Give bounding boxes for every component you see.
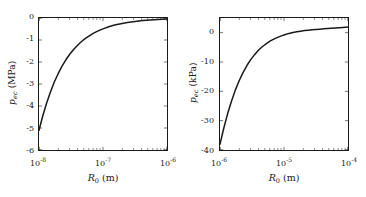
x-tick-mantissa: 10 — [160, 159, 170, 168]
y-tick-label: -40 — [183, 147, 214, 155]
y-tick-label: -4 — [6, 102, 34, 110]
plot-area-left — [38, 17, 168, 151]
x-tick-exponent: -7 — [105, 156, 111, 163]
y-tick-label: -1 — [6, 35, 34, 43]
x-tick-mantissa: 10 — [211, 159, 221, 168]
y-tick-label: 0 — [183, 28, 214, 36]
x-axis-label-unit-right: (m) — [280, 172, 299, 183]
x-axis-label-left: R0 (m) — [38, 172, 168, 185]
x-tick-exponent: -5 — [286, 156, 292, 163]
y-tick-label: -2 — [6, 58, 34, 66]
plot-curve-left — [39, 18, 167, 150]
y-tick-label: -3 — [6, 80, 34, 88]
y-tick-label: -10 — [183, 58, 214, 66]
y-axis-label-unit-right: (kPa) — [188, 62, 198, 89]
figure-container: pec (MPa) R0 (m) 0-1-2-3-4-5-6 10-810-71… — [0, 0, 366, 197]
x-tick-mantissa: 10 — [30, 159, 40, 168]
y-tick-label: 0 — [6, 13, 34, 21]
x-tick-mantissa: 10 — [95, 159, 105, 168]
x-tick-exponent: -4 — [351, 156, 357, 163]
x-axis-label-unit-left: (m) — [99, 172, 118, 183]
x-tick-label: 10-6 — [199, 155, 239, 168]
x-tick-mantissa: 10 — [341, 159, 351, 168]
x-tick-label: 10-7 — [83, 155, 123, 168]
y-tick-label: -5 — [6, 125, 34, 133]
x-tick-label: 10-8 — [18, 155, 58, 168]
y-tick-label: -30 — [183, 117, 214, 125]
x-axis-label-var-right: R — [269, 172, 276, 183]
y-axis-label-var-right: p — [188, 97, 198, 103]
y-axis-label-sub-left: ec — [11, 91, 19, 99]
x-tick-label: 10-5 — [264, 155, 304, 168]
y-tick-label: -20 — [183, 87, 214, 95]
x-tick-label: 10-6 — [148, 155, 188, 168]
plot-area-right — [219, 17, 349, 151]
chart-panel-left: pec (MPa) R0 (m) 0-1-2-3-4-5-6 10-810-71… — [0, 0, 183, 197]
plot-curve-right — [220, 18, 348, 150]
x-tick-exponent: -6 — [170, 156, 176, 163]
x-axis-label-var-left: R — [88, 172, 95, 183]
x-tick-mantissa: 10 — [276, 159, 286, 168]
y-tick-label: -6 — [6, 147, 34, 155]
x-tick-exponent: -8 — [40, 156, 46, 163]
x-tick-label: 10-4 — [329, 155, 366, 168]
x-tick-exponent: -6 — [221, 156, 227, 163]
x-axis-label-right: R0 (m) — [219, 172, 349, 185]
chart-panel-right: pec (kPa) R0 (m) 0-10-20-30-40 10-610-51… — [183, 0, 366, 197]
